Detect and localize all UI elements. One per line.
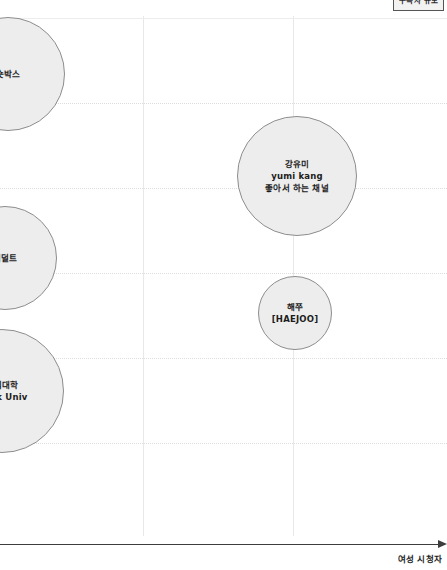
gridline-horizontal [0, 358, 447, 359]
x-axis [0, 544, 447, 546]
gridline-horizontal [0, 443, 447, 444]
bubble-chart: 구독자 규모 숏박스 너덜트 피식대학 Psick Univ 강유미 yumi … [0, 0, 447, 570]
bubble-yumi-kang[interactable]: 강유미 yumi kang 좋아서 하는 채널 [237, 116, 357, 236]
x-axis-arrow-icon [438, 540, 447, 548]
gridline-vertical [143, 16, 144, 536]
bubble-shortbox[interactable]: 숏박스 [0, 17, 65, 131]
gridline-horizontal [0, 103, 447, 104]
bubble-label: 피식대학 Psick Univ [0, 379, 32, 404]
bubble-label: 숏박스 [0, 68, 24, 80]
x-axis-label-right: 여성 시청자 [398, 552, 442, 564]
bubble-neodeulteu[interactable]: 너덜트 [0, 206, 57, 310]
gridline-horizontal [0, 18, 447, 19]
bubble-label: 너덜트 [0, 252, 21, 264]
bubble-label: 강유미 yumi kang 좋아서 하는 채널 [261, 158, 333, 195]
legend-badge: 구독자 규모 [393, 0, 444, 11]
gridline-horizontal [0, 188, 447, 189]
gridline-horizontal [0, 273, 447, 274]
bubble-label: 해쭈 [HAEJOO] [268, 301, 322, 326]
bubble-psick-univ[interactable]: 피식대학 Psick Univ [0, 329, 64, 453]
bubble-haejoo[interactable]: 해쭈 [HAEJOO] [258, 276, 332, 350]
x-axis-line [0, 544, 440, 545]
plot-area: 숏박스 너덜트 피식대학 Psick Univ 강유미 yumi kang 좋아… [0, 16, 447, 536]
